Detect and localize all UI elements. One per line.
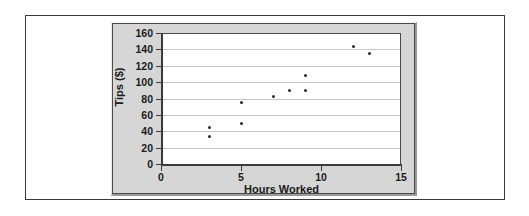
gridline — [161, 99, 401, 100]
gridline — [161, 49, 401, 50]
y-axis-tick-label: 20 — [113, 143, 153, 154]
y-axis-line — [161, 33, 163, 165]
y-axis-tick — [156, 49, 161, 50]
gridline — [161, 148, 401, 149]
data-point — [288, 89, 291, 92]
gridline — [161, 131, 401, 132]
gridline — [161, 82, 401, 83]
y-axis-tick — [156, 99, 161, 100]
gridline — [161, 33, 401, 34]
data-point — [352, 45, 355, 48]
data-point — [208, 126, 211, 129]
data-point — [272, 95, 275, 98]
figure-frame: 020406080100120140160 051015 Hours Worke… — [25, 15, 505, 200]
x-axis-line — [161, 164, 402, 166]
x-axis-title: Hours Worked — [161, 183, 402, 195]
chart-panel: 020406080100120140160 051015 Hours Worke… — [111, 22, 417, 196]
y-axis-tick — [156, 33, 161, 34]
y-axis-tick — [156, 82, 161, 83]
y-axis-tick-label: 40 — [113, 126, 153, 137]
y-axis-tick — [156, 115, 161, 116]
y-axis-tick — [156, 66, 161, 67]
plot-right-border — [400, 33, 401, 165]
screenshot-canvas: 020406080100120140160 051015 Hours Worke… — [0, 0, 529, 216]
plot-area — [161, 33, 401, 164]
y-axis-tick — [156, 164, 161, 165]
y-axis-title: Tips ($) — [113, 47, 125, 127]
data-point — [304, 74, 307, 77]
y-axis-tick — [156, 131, 161, 132]
x-axis-tick-label: 5 — [226, 172, 256, 183]
data-point — [240, 101, 243, 104]
y-axis-tick-label: 160 — [113, 28, 153, 39]
y-axis-tick-label: 0 — [113, 159, 153, 170]
data-point — [368, 52, 371, 55]
y-axis-tick — [156, 148, 161, 149]
gridline — [161, 115, 401, 116]
data-point — [240, 122, 243, 125]
data-point — [304, 89, 307, 92]
x-axis-tick-label: 15 — [386, 172, 416, 183]
data-point — [208, 135, 211, 138]
x-axis-tick-label: 10 — [306, 172, 336, 183]
x-axis-tick-label: 0 — [146, 172, 176, 183]
gridline — [161, 66, 401, 67]
